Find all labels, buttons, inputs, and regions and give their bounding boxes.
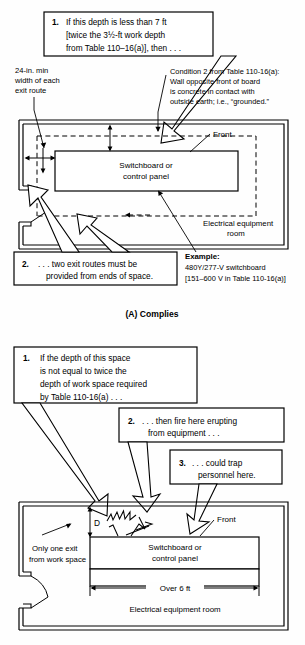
panel-a-caption: (A) Complies [126, 309, 179, 319]
panel-a-front-label: Front [190, 130, 232, 152]
panel-a-board-label-line-2: control panel [123, 172, 169, 181]
panel-a-callout-2-line-1: . . . two exit routes must be [38, 259, 138, 269]
panel-b-front-label: Front [200, 515, 236, 536]
panel-a-note-condition-2: Condition 2 from Table 110-16(a): Wall o… [155, 67, 279, 132]
note-exit-width-line-3: exit route [15, 86, 46, 95]
panel-b-front-text: Front [217, 515, 236, 524]
panel-a-callout-2-number: 2. [22, 259, 29, 269]
panel-b-callout-1-line-4: by Table 110-16(a) . . . [40, 392, 122, 402]
panel-b-over6ft-text: Over 6 ft [160, 584, 191, 593]
panel-a-depth-dimension [108, 125, 113, 152]
panel-a-callout-2-line-2: provided from ends of space. [46, 271, 153, 281]
figure-canvas: 1. If this depth is less than 7 ft [twic… [0, 0, 305, 645]
panel-b-callout-2-line-1: . . . then fire here erupting [142, 416, 237, 426]
panel-a-callout-1-line-1: If this depth is less than 7 ft [66, 17, 167, 27]
nec-working-space-figure: 1. If this depth is less than 7 ft [twic… [0, 0, 305, 645]
panel-b-callout-3-line-2: personnel here. [198, 470, 256, 480]
panel-a-room-line-1: Electrical equipment [203, 219, 274, 228]
panel-a-board-label-line-1: Switchboard or [119, 161, 173, 170]
panel-a-front-text: Front [213, 130, 232, 139]
panel-b-callout-1-line-1: If the depth of this space [40, 353, 131, 363]
panel-a-example-leader [158, 191, 196, 253]
panel-b-callout-2-line-2: from equipment . . . [148, 428, 219, 438]
panel-a-exit-width-dimension [25, 148, 56, 174]
panel-a-room-line-2: room [227, 229, 245, 238]
note-condition-line-1: Condition 2 from Table 110-16(a): [170, 67, 279, 76]
panel-a-switchboard: Switchboard or control panel [55, 151, 238, 191]
panel-b-callout-1: 1. If the depth of this space is not equ… [14, 347, 197, 403]
panel-b-callout-3-line-1: . . . could trap [192, 458, 243, 468]
panel-b-callout-1-number: 1. [23, 353, 30, 363]
panel-b-room-label: Electrical equipment room [129, 605, 221, 614]
panel-b-callout-2: 2. . . . then fire here erupting from eq… [119, 408, 284, 442]
panel-a-callout-1-line-3: from Table 110–16(a)], then . . . [66, 43, 181, 53]
panel-a-example-line-2: [151–600 V in Table 110-16(a)] [185, 274, 286, 283]
panel-a-callout-2: 2. . . . two exit routes must be provide… [14, 252, 177, 285]
panel-b-switchboard: Switchboard or control panel [90, 537, 259, 586]
panel-b-d-label: D [94, 518, 100, 528]
panel-a-note-exit-width: 24-in. min width of each exit route [14, 66, 60, 148]
panel-a-example-line-1: 480Y/277-V switchboard [185, 263, 266, 272]
panel-b-arrow-from-callout-1 [22, 403, 108, 516]
panel-a-arrow-exit-lower [77, 214, 129, 252]
note-condition-line-2: Wall opposite front of board [170, 77, 260, 86]
panel-a-callout-1: 1. If this depth is less than 7 ft [twic… [44, 12, 213, 56]
panel-a-callout-1-line-2: [twice the 3½-ft work depth [66, 30, 166, 40]
note-condition-line-4: outside earth; i.e., “grounded.” [170, 97, 270, 106]
panel-b-only-exit-line-2: from work space [29, 555, 86, 564]
panel-a-example-heading: Example: [185, 252, 220, 261]
panel-b-callout-1-line-2: is not equal to twice the [40, 366, 127, 376]
panel-b-callout-2-number: 2. [128, 416, 135, 426]
panel-a-example: Example: 480Y/277-V switchboard [151–600… [185, 252, 286, 283]
panel-b-callout-3-number: 3. [179, 458, 186, 468]
panel-b-fire-burst-icon [107, 511, 152, 536]
panel-b-board-label-line-2: control panel [152, 554, 198, 563]
panel-b-arrow-from-callout-3 [187, 484, 217, 534]
panel-a-callout-1-number: 1. [52, 17, 59, 27]
panel-b-only-one-exit-label: Only one exit from work space [29, 524, 86, 565]
panel-b-only-exit-line-1: Only one exit [32, 544, 78, 553]
note-exit-width-line-2: width of each [14, 76, 60, 85]
note-exit-width-line-1: 24-in. min [15, 66, 48, 75]
panel-b-board-label-line-1: Switchboard or [148, 543, 202, 552]
note-condition-line-3: is concrete in contact with [170, 87, 255, 96]
panel-b-callout-1-line-3: depth of work space required [40, 379, 147, 389]
panel-b-callout-3: 3. . . . could trap personnel here. [170, 450, 282, 484]
